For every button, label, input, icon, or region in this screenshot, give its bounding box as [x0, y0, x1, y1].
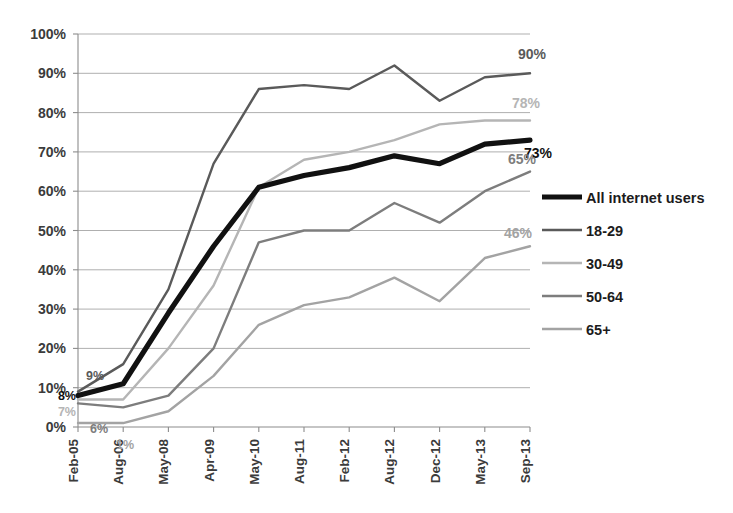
- y-axis-tick-label: 40%: [38, 262, 67, 278]
- x-axis-tick-label: Aug-12: [382, 439, 397, 485]
- end-value-label-65: 46%: [504, 225, 533, 241]
- end-value-label-30-49: 78%: [512, 95, 541, 111]
- chart-container: 0%10%20%30%40%50%60%70%80%90%100% Feb-05…: [0, 0, 733, 513]
- legend-item-label: 50-64: [586, 289, 623, 305]
- start-value-label-50-64: 6%: [90, 422, 108, 436]
- start-value-label-all-internet-users: 8%: [58, 389, 76, 403]
- y-axis-tick-label: 50%: [38, 223, 67, 239]
- legend-item-label: 65+: [586, 322, 611, 338]
- start-value-label-30-49: 7%: [58, 405, 76, 419]
- legend-item-label: 30-49: [586, 256, 623, 272]
- x-axis-tick-label: May-10: [247, 439, 262, 485]
- legend-item-label: 18-29: [586, 223, 623, 239]
- end-value-label-50-64: 65%: [508, 151, 537, 167]
- x-axis-tick-label: Feb-12: [337, 439, 352, 483]
- x-axis-tick-label: Dec-12: [428, 439, 443, 483]
- legend-item-label: All internet users: [586, 190, 704, 206]
- start-value-label-65: 1%: [116, 438, 134, 452]
- x-axis-tick-label: Aug-11: [292, 439, 307, 485]
- y-axis-tick-label: 90%: [38, 65, 67, 81]
- x-axis-tick-label: Apr-09: [202, 439, 217, 482]
- y-axis-tick-label: 80%: [38, 105, 67, 121]
- y-axis-tick-label: 30%: [38, 301, 67, 317]
- y-axis-tick-label: 60%: [38, 183, 67, 199]
- y-axis-tick-label: 0%: [46, 419, 67, 435]
- x-axis-tick-label: May-08: [156, 439, 171, 485]
- line-chart: 0%10%20%30%40%50%60%70%80%90%100% Feb-05…: [0, 0, 733, 513]
- x-axis-tick-label: Feb-05: [66, 439, 81, 483]
- y-axis-tick-label: 70%: [38, 144, 67, 160]
- y-axis-tick-label: 100%: [30, 26, 66, 42]
- y-axis-tick-label: 20%: [38, 340, 67, 356]
- x-axis-tick-label: May-13: [473, 439, 488, 485]
- end-value-label-18-29: 90%: [518, 46, 547, 62]
- x-axis-tick-label: Sep-13: [518, 439, 533, 484]
- start-value-label-18-29: 9%: [86, 369, 104, 383]
